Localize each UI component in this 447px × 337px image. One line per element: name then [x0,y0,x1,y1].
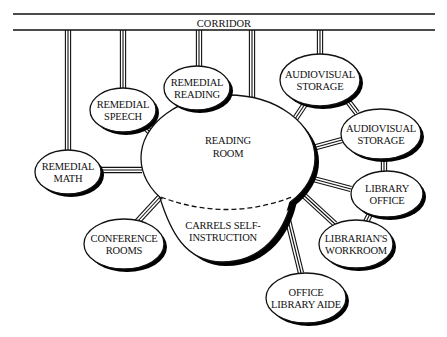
node-label: READING [174,89,220,100]
node-label: AUDIOVISUAL [346,123,416,134]
connector-corridor-to-remedial-reading [196,30,201,66]
node-conference-rooms: CONFERENCEROOMS [84,219,167,272]
reading-room-label: ROOM [213,148,245,159]
connector-corridor-to-audiovisual-storage-1 [317,30,322,54]
node-label: ROOMS [106,245,143,256]
node-label: REMEDIAL [171,77,224,88]
node-label: OFFICE [370,195,405,206]
node-label: WORKROOM [325,245,388,256]
connector-conference-rooms-to-reading-room [135,194,163,224]
node-remedial-reading: REMEDIALREADING [164,66,233,113]
node-label: LIBRARIAN'S [325,233,388,244]
node-audiovisual-storage-1: AUDIOVISUALSTORAGE [280,54,363,109]
corridor: CORRIDOR [13,14,435,30]
space-relationship-diagram: CORRIDOR READINGROOMCARRELS SELF-INSTRUC… [0,0,447,337]
node-library-office: LIBRARYOFFICE [351,171,426,220]
corridor-label: CORRIDOR [197,18,251,29]
reading-room-node: READINGROOMCARRELS SELF-INSTRUCTION [141,95,319,266]
connector-corridor-to-reading-room [249,30,254,99]
connector-corridor-to-remedial-math [65,30,70,150]
reading-room-label: READING [205,135,251,146]
node-label: LIBRARY [365,183,410,194]
carrels-label: CARRELS SELF- [185,220,261,231]
node-label: REMEDIAL [97,99,150,110]
node-office-library-aide: OFFICELIBRARY AIDE [266,273,349,326]
connector-remedial-math-to-reading-room [101,167,142,172]
node-label: MATH [54,173,84,184]
node-librarians-workroom: LIBRARIAN'SWORKROOM [319,220,396,271]
node-label: STORAGE [297,81,344,92]
carrels-label: INSTRUCTION [189,232,257,243]
node-remedial-math: REMEDIALMATH [35,150,104,197]
node-label: REMEDIAL [42,161,95,172]
node-label: STORAGE [358,135,405,146]
node-label: OFFICE [289,287,324,298]
node-remedial-speech: REMEDIALSPEECH [90,88,159,135]
node-label: AUDIOVISUAL [285,69,355,80]
node-label: CONFERENCE [91,233,158,244]
connector-corridor-to-remedial-speech [120,30,125,88]
node-label: SPEECH [104,111,143,122]
node-audiovisual-storage-2: AUDIOVISUALSTORAGE [341,109,424,162]
node-label: LIBRARY AIDE [271,299,341,310]
